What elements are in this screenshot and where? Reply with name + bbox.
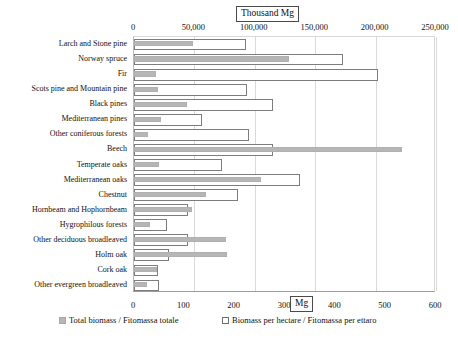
bar-total-biomass xyxy=(134,87,158,92)
legend-item-biomass-per-hectare: Biomass per hectare / Fitomassa per etta… xyxy=(222,314,376,326)
bar-biomass-per-hectare xyxy=(134,129,249,141)
bar-group xyxy=(134,37,434,52)
biomass-bar-chart: Thousand Mg 050,000100,000150,000200,000… xyxy=(0,0,458,343)
bar-total-biomass xyxy=(134,207,192,212)
bar-group xyxy=(134,188,434,203)
bar-total-biomass xyxy=(134,56,289,61)
category-label: Hygrophilous forests xyxy=(60,220,127,229)
bar-total-biomass xyxy=(134,222,150,227)
legend-label-total: Total biomass / Fitomassa totale xyxy=(69,314,178,326)
category-label: Chestnut xyxy=(99,190,127,199)
top-tick-label: 200,000 xyxy=(361,21,389,33)
category-label: Other evergreen broadleaved xyxy=(34,280,127,289)
category-label: Fir xyxy=(118,69,127,78)
bar-group xyxy=(134,248,434,263)
top-tick-label: 100,000 xyxy=(240,21,268,33)
plot-area xyxy=(133,36,435,292)
bar-total-biomass xyxy=(134,71,156,76)
bar-total-biomass xyxy=(134,41,193,46)
bar-total-biomass xyxy=(134,162,159,167)
bar-biomass-per-hectare xyxy=(134,69,378,81)
category-label: Norway spruce xyxy=(78,54,127,63)
bar-group xyxy=(134,233,434,248)
category-label: Mediterranean pines xyxy=(61,114,127,123)
top-tick-label: 50,000 xyxy=(182,21,205,33)
bar-group xyxy=(134,278,434,293)
bar-total-biomass xyxy=(134,177,261,182)
chart-legend: Total biomass / Fitomassa totale Biomass… xyxy=(0,314,458,330)
bottom-axis-title: Mg xyxy=(290,296,313,312)
category-label: Scots pine and Mountain pine xyxy=(31,84,127,93)
bar-total-biomass xyxy=(134,267,157,272)
legend-label-hectare: Biomass per hectare / Fitomassa per etta… xyxy=(232,314,376,326)
bottom-tick-label: 400 xyxy=(328,299,341,311)
bar-group xyxy=(134,203,434,218)
legend-swatch-total-icon xyxy=(59,317,66,324)
bottom-tick-label: 0 xyxy=(131,299,135,311)
category-label: Other coniferous forests xyxy=(50,129,127,138)
category-label: Other deciduous broadleaved xyxy=(33,235,127,244)
bar-group xyxy=(134,218,434,233)
bottom-axis-ticks: 0100200300400500600 xyxy=(0,299,458,311)
bar-group xyxy=(134,82,434,97)
bar-total-biomass xyxy=(134,192,206,197)
top-tick-label: 0 xyxy=(131,21,135,33)
bar-group xyxy=(134,52,434,67)
category-axis-labels: Larch and Stone pineNorway spruceFirScot… xyxy=(0,36,131,292)
bar-total-biomass xyxy=(134,282,147,287)
legend-swatch-hectare-icon xyxy=(222,317,229,324)
bar-group xyxy=(134,173,434,188)
bar-group xyxy=(134,112,434,127)
category-label: Hornbeam and Hophornbeam xyxy=(32,205,127,214)
bar-total-biomass xyxy=(134,237,226,242)
bottom-tick-label: 600 xyxy=(429,299,442,311)
category-label: Temperate oaks xyxy=(77,160,127,169)
bottom-tick-label: 300 xyxy=(278,299,291,311)
category-label: Black pines xyxy=(89,99,127,108)
category-label: Mediterranean oaks xyxy=(64,175,127,184)
top-axis-title: Thousand Mg xyxy=(236,6,299,22)
top-tick-label: 250,000 xyxy=(421,21,449,33)
legend-item-total-biomass: Total biomass / Fitomassa totale xyxy=(59,314,178,326)
bottom-tick-label: 100 xyxy=(177,299,190,311)
top-axis-ticks: 050,000100,000150,000200,000250,000 xyxy=(0,21,458,33)
bar-total-biomass xyxy=(134,252,227,257)
bar-total-biomass xyxy=(134,102,187,107)
bar-group xyxy=(134,127,434,142)
bar-total-biomass xyxy=(134,147,402,152)
bar-group xyxy=(134,97,434,112)
bar-group xyxy=(134,142,434,157)
bar-group xyxy=(134,263,434,278)
category-label: Larch and Stone pine xyxy=(59,39,127,48)
bottom-tick-label: 200 xyxy=(227,299,240,311)
bar-group xyxy=(134,67,434,82)
bar-total-biomass xyxy=(134,117,161,122)
category-label: Beech xyxy=(107,144,127,153)
top-tick-label: 150,000 xyxy=(300,21,328,33)
bar-total-biomass xyxy=(134,132,148,137)
category-label: Holm oak xyxy=(95,250,127,259)
bar-group xyxy=(134,157,434,172)
category-label: Cork oak xyxy=(97,265,127,274)
bottom-tick-label: 500 xyxy=(378,299,391,311)
gridline xyxy=(436,37,437,291)
